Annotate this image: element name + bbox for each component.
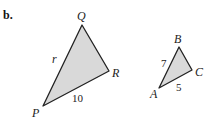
vertex-label-q: Q [77,9,86,23]
vertex-label-b: B [174,32,182,46]
vertex-label-a: A [149,87,158,101]
similar-triangles-diagram: b. Q R P r 10 B C A 7 5 [0,0,205,121]
side-label-pq: r [52,52,57,66]
vertex-label-r: R [111,66,120,80]
vertex-label-c: C [195,65,204,79]
side-label-ac: 5 [176,81,182,93]
vertex-label-p: P [31,106,40,120]
side-label-ab: 7 [161,57,167,69]
side-label-pr: 10 [72,92,84,104]
part-label: b. [3,8,13,22]
